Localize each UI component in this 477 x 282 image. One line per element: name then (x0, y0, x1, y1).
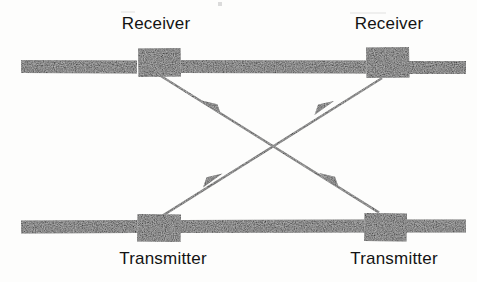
scan-artifact-speck (218, 2, 222, 6)
label-receiver-right: Receiver (355, 14, 424, 34)
label-receiver-left: Receiver (122, 14, 191, 34)
signal-line-ascending (161, 77, 383, 217)
receiver-block-left (138, 48, 181, 77)
lower-line-segment-right (406, 220, 466, 233)
signal-line-descending (159, 74, 379, 213)
transmitter-block-right (364, 213, 407, 242)
label-transmitter-left: Transmitter (119, 249, 207, 269)
upper-line-segment-left (21, 60, 137, 74)
label-transmitter-right: Transmitter (350, 249, 438, 269)
crosstalk-diagram: Receiver Receiver Transmitter Transmitte… (0, 0, 477, 282)
diagram-canvas (0, 0, 477, 282)
transmitter-block-left (137, 214, 181, 242)
lower-line-segment-middle (180, 220, 364, 234)
path-tx-right-to-rx-left (159, 74, 379, 213)
scan-artifact-smudge-left (121, 11, 135, 13)
receiver-block-right (366, 47, 410, 78)
arrowhead-ascending-upper (315, 101, 335, 115)
lower-line-segment-left (21, 220, 137, 234)
path-tx-left-to-rx-right (161, 77, 383, 217)
upper-line-segment-middle (181, 60, 366, 74)
upper-line-segment-right (409, 61, 466, 74)
